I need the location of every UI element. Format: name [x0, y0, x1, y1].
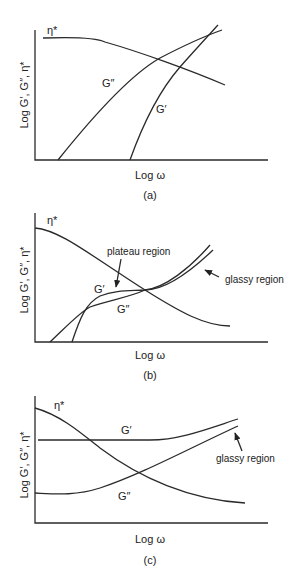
x-axis-label-b: Log ω: [135, 349, 165, 361]
g-prime-label-a: G′: [156, 103, 167, 115]
g-double-prime-curve-c: [35, 426, 238, 494]
glassy-arrow-b-icon: [205, 270, 219, 277]
g-prime-curve-a: [130, 25, 218, 160]
g-prime-label-b: G′: [94, 283, 105, 295]
panel-a: Log G′, G″, η* Log ω (a) η* G″ G′: [18, 24, 268, 201]
glassy-region-label-b: glassy region: [225, 274, 284, 285]
y-axis-label-a: Log G′, G″, η*: [18, 61, 30, 129]
caption-a: (a): [143, 189, 156, 201]
eta-curve-c: [35, 408, 245, 503]
panel-c: Log G′, G″, η* Log ω (c) η* G′ G″ glassy…: [18, 396, 275, 566]
g-double-prime-label-a: G″: [102, 77, 115, 89]
g-prime-label-c: G′: [121, 424, 132, 436]
g-double-prime-label-c: G″: [118, 490, 131, 502]
panel-b: Log G′, G″, η* Log ω (b) η* G′ G″ platea…: [18, 213, 284, 381]
y-axis-label-c: Log G′, G″, η*: [18, 431, 30, 499]
glassy-arrow-c-icon: [235, 433, 242, 451]
rheology-figure: Log G′, G″, η* Log ω (a) η* G″ G′ Log G′…: [0, 0, 300, 583]
y-axis-label-b: Log G′, G″, η*: [18, 246, 30, 314]
eta-label-b: η*: [47, 214, 58, 226]
glassy-region-label-c: glassy region: [216, 453, 275, 464]
x-axis-label-c: Log ω: [135, 533, 165, 545]
caption-c: (c): [144, 554, 157, 566]
plateau-region-label: plateau region: [107, 246, 170, 257]
eta-label-a: η*: [47, 24, 58, 36]
g-prime-curve-b: [72, 245, 210, 342]
g-double-prime-curve-a: [58, 30, 222, 160]
axes-a: [35, 30, 268, 160]
eta-curve-b: [35, 228, 230, 326]
caption-b: (b): [143, 369, 156, 381]
g-double-prime-curve-b: [50, 250, 213, 342]
g-double-prime-label-b: G″: [117, 303, 130, 315]
eta-label-c: η*: [54, 399, 65, 411]
g-prime-curve-c: [38, 419, 238, 440]
plateau-arrow-icon: [116, 259, 121, 287]
x-axis-label-a: Log ω: [135, 169, 165, 181]
